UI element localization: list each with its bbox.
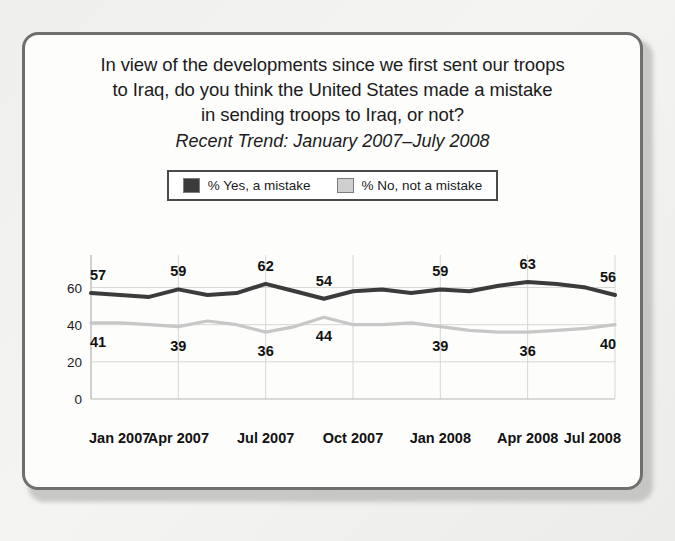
svg-text:Jul 2008: Jul 2008 xyxy=(564,430,621,446)
y-axis-ticks: 0204060 xyxy=(67,281,82,407)
svg-text:59: 59 xyxy=(432,263,448,279)
legend-label-no: % No, not a mistake xyxy=(362,178,483,193)
svg-text:59: 59 xyxy=(170,263,186,279)
svg-text:62: 62 xyxy=(258,258,274,274)
svg-text:56: 56 xyxy=(600,269,616,285)
x-axis-labels: Jan 2007Apr 2007Jul 2007Oct 2007Jan 2008… xyxy=(45,425,620,451)
svg-text:39: 39 xyxy=(170,338,186,354)
legend-item-yes[interactable]: % Yes, a mistake xyxy=(183,178,311,193)
svg-text:54: 54 xyxy=(316,273,332,289)
svg-text:40: 40 xyxy=(67,318,82,333)
svg-text:Oct 2007: Oct 2007 xyxy=(323,430,383,446)
svg-text:0: 0 xyxy=(74,392,82,407)
svg-text:63: 63 xyxy=(520,256,536,272)
legend-container: % Yes, a mistake % No, not a mistake xyxy=(25,170,640,201)
chart-card: In view of the developments since we fir… xyxy=(22,32,643,490)
chart-title-line-2: to Iraq, do you think the United States … xyxy=(51,77,614,102)
svg-text:Jul 2007: Jul 2007 xyxy=(237,430,294,446)
svg-text:20: 20 xyxy=(67,355,82,370)
svg-text:60: 60 xyxy=(67,281,82,296)
x-axis-svg: Jan 2007Apr 2007Jul 2007Oct 2007Jan 2008… xyxy=(45,425,626,451)
svg-text:36: 36 xyxy=(520,343,536,359)
chart-title-block: In view of the developments since we fir… xyxy=(51,52,614,154)
line-chart-svg: 0204060 57596254596356 41393644393640 xyxy=(45,223,626,423)
chart-title-line-1: In view of the developments since we fir… xyxy=(51,52,614,77)
legend-swatch-yes-icon xyxy=(183,178,200,193)
svg-text:41: 41 xyxy=(90,334,106,350)
svg-text:Jan 2007: Jan 2007 xyxy=(89,430,150,446)
svg-text:Jan 2008: Jan 2008 xyxy=(410,430,471,446)
chart-title-line-3: in sending troops to Iraq, or not? xyxy=(51,102,614,127)
svg-text:Apr 2008: Apr 2008 xyxy=(497,430,558,446)
legend-label-yes: % Yes, a mistake xyxy=(208,178,311,193)
svg-text:44: 44 xyxy=(316,328,332,344)
svg-text:36: 36 xyxy=(258,343,274,359)
svg-text:40: 40 xyxy=(600,336,616,352)
chart-legend: % Yes, a mistake % No, not a mistake xyxy=(167,170,499,201)
chart-subtitle: Recent Trend: January 2007–July 2008 xyxy=(51,128,614,154)
svg-text:57: 57 xyxy=(90,267,106,283)
svg-text:Apr 2007: Apr 2007 xyxy=(148,430,209,446)
svg-text:39: 39 xyxy=(432,338,448,354)
legend-item-no[interactable]: % No, not a mistake xyxy=(337,178,483,193)
legend-swatch-no-icon xyxy=(337,178,354,193)
plot-area: 0204060 57596254596356 41393644393640 xyxy=(45,223,620,423)
